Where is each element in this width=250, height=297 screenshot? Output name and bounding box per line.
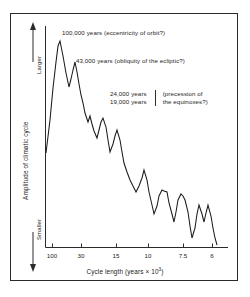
x-axis-tick-label: 100 xyxy=(47,252,57,259)
x-axis-tick-label: 30 xyxy=(78,252,85,259)
climate-spectrum-figure: 1003015107.56 Cycle length (years × 103)… xyxy=(0,0,250,297)
annotation-precession-periods: 24,000 years 19,000 years xyxy=(110,90,147,106)
x-axis-ticks xyxy=(53,244,213,248)
x-axis-label-close: ) xyxy=(161,268,163,275)
annotation-precession-period-2: 19,000 years xyxy=(110,98,147,106)
y-axis-larger-label: Larger xyxy=(36,56,42,74)
y-axis-label: Amplitude of climatic cycle xyxy=(22,122,29,200)
annotation-bracket-divider xyxy=(155,90,156,106)
spectrum-curve xyxy=(46,41,217,245)
x-axis-tick-label: 6 xyxy=(210,252,213,259)
annotation-eccentricity: 100,000 years (eccentricity of orbit?) xyxy=(62,29,165,37)
annotation-precession-cause-line-2: the equinoxes?) xyxy=(163,98,208,106)
annotation-obliquity: 43,000 years (obliquity of the ecliptic?… xyxy=(76,57,185,65)
x-axis-label: Cycle length (years × 103) xyxy=(0,267,250,275)
x-axis-tick-label: 7.5 xyxy=(179,252,188,259)
annotation-precession-cause: (precession of the equinoxes?) xyxy=(163,90,208,106)
annotation-precession-period-1: 24,000 years xyxy=(110,90,147,98)
x-axis-tick-label: 10 xyxy=(145,252,152,259)
y-axis-smaller-label: Smaller xyxy=(36,219,42,240)
annotation-precession: 24,000 years 19,000 years (precession of… xyxy=(110,90,208,106)
x-axis-label-base: Cycle length (years × 10 xyxy=(86,268,158,275)
x-axis-tick-label: 15 xyxy=(113,252,120,259)
annotation-precession-cause-line-1: (precession of xyxy=(163,90,208,98)
